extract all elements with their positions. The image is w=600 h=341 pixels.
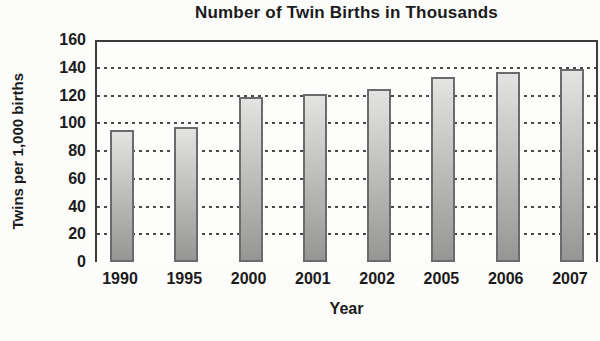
y-axis-title: Twins per 1,000 births xyxy=(9,73,26,229)
scanned-chart-page: Number of Twin Births in Thousands Twins… xyxy=(0,0,600,341)
x-axis-tick-labels: 19901995200020012002200520062007 xyxy=(95,270,598,290)
gridline-20 xyxy=(97,233,596,235)
gridline-60 xyxy=(97,178,596,180)
y-tick-label-100: 100 xyxy=(59,114,86,132)
y-tick-label-60: 60 xyxy=(68,170,86,188)
bar-2000 xyxy=(239,97,263,262)
gridline-40 xyxy=(97,206,596,208)
x-tick-label-2005: 2005 xyxy=(424,270,460,288)
gridline-120 xyxy=(97,95,596,97)
y-tick-label-120: 120 xyxy=(59,87,86,105)
bar-2006 xyxy=(496,72,520,262)
x-tick-label-2002: 2002 xyxy=(359,270,395,288)
x-tick-label-2000: 2000 xyxy=(231,270,267,288)
y-tick-label-40: 40 xyxy=(68,198,86,216)
y-axis-title-wrap: Twins per 1,000 births xyxy=(0,40,34,262)
gridline-100 xyxy=(97,122,596,124)
y-axis-tick-labels: 020406080100120140160 xyxy=(34,40,88,262)
bar-2005 xyxy=(431,77,455,262)
y-tick-label-20: 20 xyxy=(68,225,86,243)
x-tick-label-1990: 1990 xyxy=(102,270,138,288)
y-tick-label-160: 160 xyxy=(59,31,86,49)
x-tick-label-2001: 2001 xyxy=(295,270,331,288)
chart-title: Number of Twin Births in Thousands xyxy=(95,3,598,23)
bar-2002 xyxy=(367,89,391,262)
bar-2001 xyxy=(303,94,327,262)
plot-area xyxy=(95,40,598,262)
y-tick-label-0: 0 xyxy=(77,253,86,271)
y-tick-label-140: 140 xyxy=(59,59,86,77)
x-tick-label-2007: 2007 xyxy=(552,270,588,288)
bar-1995 xyxy=(174,127,198,262)
gridline-80 xyxy=(97,150,596,152)
x-tick-label-2006: 2006 xyxy=(488,270,524,288)
gridline-140 xyxy=(97,67,596,69)
bar-1990 xyxy=(110,130,134,262)
x-tick-label-1995: 1995 xyxy=(166,270,202,288)
bar-2007 xyxy=(560,69,584,262)
y-tick-label-80: 80 xyxy=(68,142,86,160)
x-axis-title: Year xyxy=(95,300,598,318)
